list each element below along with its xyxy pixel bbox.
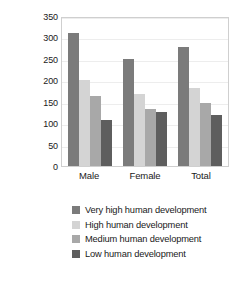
legend-item: Medium human development <box>72 232 240 246</box>
bar-group-female <box>123 18 167 166</box>
y-axis-tick-labels: 050100150200250300350 <box>30 14 58 166</box>
y-axis-tick-label: 200 <box>30 76 58 86</box>
legend-item-label: Low human development <box>85 249 186 259</box>
bar <box>68 33 79 166</box>
y-axis-tick-label: 350 <box>30 12 58 22</box>
bar <box>101 120 112 166</box>
legend-item: Low human development <box>72 247 240 261</box>
legend-item: Very high human development <box>72 203 240 217</box>
bar <box>79 80 90 166</box>
x-axis-tick-label: Female <box>119 170 171 184</box>
y-axis-tick-label: 0 <box>30 162 58 172</box>
bar <box>90 96 101 166</box>
x-axis-tick-label: Male <box>63 170 115 184</box>
bar <box>145 109 156 166</box>
bar <box>134 94 145 166</box>
y-axis-tick-label: 50 <box>30 141 58 151</box>
bar-chart-figure: Age-standardized cancer incidence rate p… <box>0 0 245 286</box>
bar <box>200 103 211 166</box>
legend-swatch-icon <box>72 235 80 243</box>
bar-group-total <box>178 18 222 166</box>
chart-legend: Very high human developmentHigh human de… <box>72 203 240 261</box>
x-axis-tick-label: Total <box>175 170 227 184</box>
y-axis-tick-label: 250 <box>30 55 58 65</box>
y-axis-tick-label: 300 <box>30 33 58 43</box>
plot-area <box>61 17 229 167</box>
legend-swatch-icon <box>72 250 80 258</box>
x-axis-tick-labels: MaleFemaleTotal <box>61 170 229 184</box>
bar <box>178 47 189 166</box>
legend-swatch-icon <box>72 221 80 229</box>
bar <box>123 59 134 166</box>
legend-swatch-icon <box>72 206 80 214</box>
y-axis-tick-label: 150 <box>30 98 58 108</box>
bar-group-male <box>68 18 112 166</box>
bar <box>211 115 222 166</box>
y-axis-tick-label: 100 <box>30 119 58 129</box>
bar <box>156 112 167 166</box>
legend-item-label: High human development <box>85 220 188 230</box>
bar <box>189 88 200 166</box>
bars-layer <box>62 18 228 166</box>
legend-item: High human development <box>72 218 240 232</box>
legend-item-label: Very high human development <box>85 205 207 215</box>
legend-item-label: Medium human development <box>85 234 201 244</box>
